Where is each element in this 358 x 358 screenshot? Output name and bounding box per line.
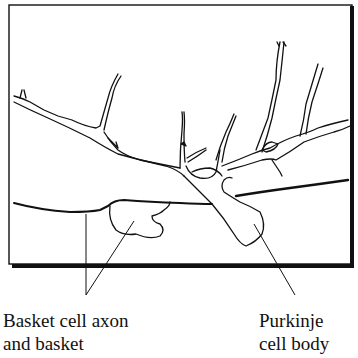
basket-cell-label-line2: and basket	[3, 332, 129, 355]
purkinje-cell-label-line1: Purkinje	[259, 309, 329, 332]
basket-cell-label: Basket cell axon and basket	[3, 309, 129, 355]
purkinje-cell-diagram	[0, 0, 358, 358]
purkinje-cell-label: Purkinje cell body	[259, 309, 329, 355]
basket-cell-label-line1: Basket cell axon	[3, 309, 129, 332]
purkinje-cell-label-line2: cell body	[259, 332, 329, 355]
